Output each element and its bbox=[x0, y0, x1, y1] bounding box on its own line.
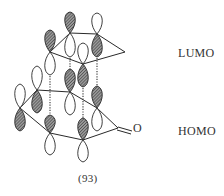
carbonyl-oxygen-label: O bbox=[133, 121, 142, 136]
carbonyl-double-bond bbox=[117, 127, 132, 134]
lumo-label: LUMO bbox=[178, 46, 215, 61]
homo-orbital-4 bbox=[92, 86, 103, 131]
homo-orbital-6 bbox=[78, 118, 89, 162]
homo-orbital-5 bbox=[45, 115, 56, 155]
lumo-orbital-4 bbox=[78, 43, 89, 87]
lumo-orbital-3 bbox=[92, 13, 103, 57]
homo-orbital-2 bbox=[32, 66, 43, 113]
homo-label: HOMO bbox=[178, 124, 216, 139]
orbital-diagram bbox=[0, 0, 224, 196]
compound-number: (93) bbox=[78, 172, 98, 184]
lumo-orbital-1 bbox=[45, 30, 56, 75]
homo-orbital-1 bbox=[15, 84, 26, 131]
lumo-orbital-2 bbox=[65, 12, 76, 57]
